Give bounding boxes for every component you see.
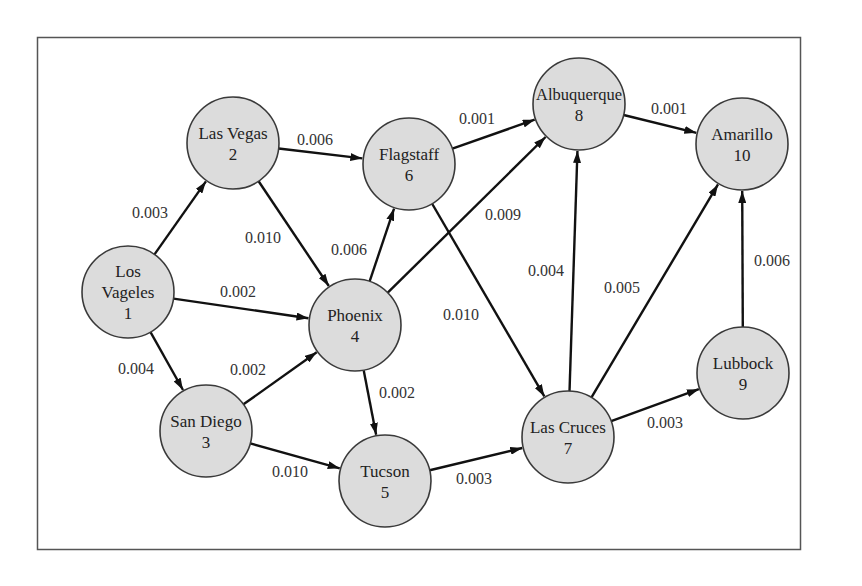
node-number: 10 bbox=[734, 146, 751, 165]
edge-weight-label: 0.001 bbox=[459, 110, 495, 127]
edge-weight-label: 0.001 bbox=[651, 100, 687, 117]
node-los-vageles: LosVageles1 bbox=[82, 246, 174, 338]
node-number: 9 bbox=[739, 375, 748, 394]
edge-weight-label: 0.003 bbox=[132, 204, 168, 221]
edge-weight-label: 0.006 bbox=[754, 252, 790, 269]
node-number: 3 bbox=[202, 433, 211, 452]
route-graph-diagram: 0.0030.0020.0040.0060.0100.0060.0090.002… bbox=[0, 0, 862, 586]
node-number: 4 bbox=[351, 327, 360, 346]
edge-4-to-6 bbox=[370, 209, 394, 282]
node-number: 6 bbox=[405, 166, 414, 185]
node-circle bbox=[522, 391, 614, 483]
node-name: Amarillo bbox=[711, 125, 772, 144]
node-phoenix: Phoenix4 bbox=[309, 279, 401, 371]
node-circle bbox=[696, 98, 788, 190]
node-circle bbox=[309, 279, 401, 371]
node-circle bbox=[187, 97, 279, 189]
edge-5-to-7 bbox=[430, 448, 523, 470]
node-number: 2 bbox=[229, 145, 238, 164]
node-name: Vageles bbox=[102, 283, 155, 302]
edge-weight-label: 0.003 bbox=[647, 414, 683, 431]
node-number: 1 bbox=[124, 304, 133, 323]
edge-weight-label: 0.002 bbox=[220, 283, 256, 300]
edge-weight-label: 0.004 bbox=[528, 262, 564, 279]
edge-weight-label: 0.004 bbox=[118, 360, 154, 377]
edge-weight-label: 0.009 bbox=[485, 206, 521, 223]
edge-9-to-10 bbox=[742, 191, 743, 327]
node-circle bbox=[339, 435, 431, 527]
node-las-cruces: Las Cruces7 bbox=[522, 391, 614, 483]
node-flagstaff: Flagstaff6 bbox=[363, 118, 455, 210]
edge-weight-label: 0.010 bbox=[272, 463, 308, 480]
edge-weight-label: 0.010 bbox=[245, 229, 281, 246]
node-circle bbox=[533, 58, 625, 150]
node-circle bbox=[160, 385, 252, 477]
node-name: Tucson bbox=[360, 462, 410, 481]
edge-8-to-10 bbox=[624, 115, 697, 133]
node-name: Phoenix bbox=[327, 306, 383, 325]
edge-weight-label: 0.006 bbox=[331, 241, 367, 258]
edge-weight-label: 0.002 bbox=[379, 384, 415, 401]
edge-4-to-5 bbox=[364, 370, 376, 435]
edge-weight-label: 0.002 bbox=[230, 361, 266, 378]
node-san-diego: San Diego3 bbox=[160, 385, 252, 477]
edge-weight-label: 0.006 bbox=[297, 131, 333, 148]
node-tucson: Tucson5 bbox=[339, 435, 431, 527]
node-albuquerque: Albuquerque8 bbox=[533, 58, 625, 150]
edge-6-to-7 bbox=[432, 204, 544, 397]
edge-7-to-8 bbox=[570, 151, 578, 391]
edge-1-to-3 bbox=[151, 332, 183, 390]
edge-weight-label: 0.005 bbox=[604, 279, 640, 296]
edge-1-to-4 bbox=[174, 299, 309, 319]
edge-weight-label: 0.003 bbox=[456, 470, 492, 487]
node-name: Lubbock bbox=[713, 354, 774, 373]
node-name: Albuquerque bbox=[536, 85, 622, 104]
node-name: Flagstaff bbox=[379, 145, 439, 164]
node-amarillo: Amarillo10 bbox=[696, 98, 788, 190]
node-name: San Diego bbox=[170, 412, 241, 431]
node-las-vegas: Las Vegas2 bbox=[187, 97, 279, 189]
node-name: Las Vegas bbox=[198, 124, 267, 143]
edge-weight-label: 0.010 bbox=[443, 306, 479, 323]
edge-2-to-6 bbox=[279, 148, 363, 158]
node-number: 5 bbox=[381, 483, 390, 502]
node-circle bbox=[697, 327, 789, 419]
node-circle bbox=[363, 118, 455, 210]
node-name: Los bbox=[115, 262, 141, 281]
node-number: 7 bbox=[564, 439, 573, 458]
node-lubbock: Lubbock9 bbox=[697, 327, 789, 419]
node-number: 8 bbox=[575, 106, 584, 125]
node-name: Las Cruces bbox=[530, 418, 606, 437]
